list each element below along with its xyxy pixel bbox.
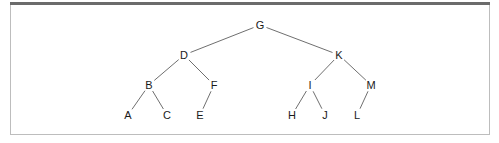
binary-tree-diagram: GDKBFIMACEHJL — [0, 0, 499, 143]
node-e: E — [196, 109, 203, 121]
node-d: D — [180, 49, 188, 61]
node-m: M — [366, 79, 375, 91]
node-a: A — [124, 109, 132, 121]
node-g: G — [256, 19, 265, 31]
edge-d-f — [189, 60, 209, 80]
edge-b-a — [132, 91, 145, 110]
edge-i-j — [313, 91, 322, 108]
edge-b-c — [153, 91, 164, 109]
node-h: H — [288, 109, 296, 121]
edge-k-m — [344, 60, 366, 80]
edge-m-l — [360, 91, 368, 108]
edge-k-i — [315, 60, 334, 80]
edge-g-d — [191, 28, 254, 53]
edge-f-e — [203, 91, 211, 108]
edge-d-b — [154, 60, 178, 81]
edge-g-k — [267, 28, 333, 53]
node-l: L — [354, 109, 360, 121]
node-j: J — [322, 109, 328, 121]
node-k: K — [335, 49, 343, 61]
node-c: C — [163, 109, 171, 121]
node-b: B — [145, 79, 152, 91]
node-f: F — [211, 79, 218, 91]
node-i: I — [308, 79, 311, 91]
tree-edges — [132, 28, 368, 110]
edge-i-h — [296, 91, 307, 109]
tree-nodes: GDKBFIMACEHJL — [124, 19, 375, 121]
